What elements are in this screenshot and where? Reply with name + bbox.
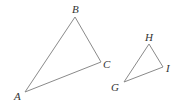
vertex-label-i: I [165, 62, 171, 74]
similar-triangles-diagram: A B C G H I [0, 0, 177, 106]
triangle-abc [25, 17, 101, 92]
vertex-label-g: G [111, 81, 119, 93]
triangle-ghi [124, 44, 163, 82]
vertex-label-a: A [13, 90, 21, 102]
vertex-label-b: B [72, 3, 79, 15]
vertex-label-c: C [103, 58, 111, 70]
vertex-label-h: H [144, 31, 154, 43]
